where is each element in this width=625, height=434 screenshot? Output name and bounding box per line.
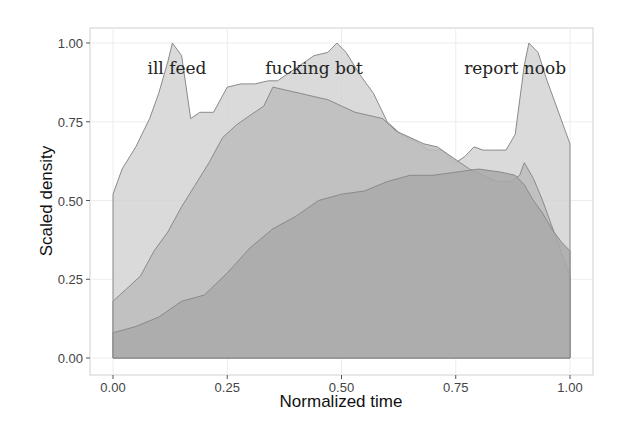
y-tick-label: 0.75 bbox=[58, 115, 83, 130]
y-tick-label: 0.50 bbox=[58, 194, 83, 209]
y-axis-title: Scaled density bbox=[37, 145, 56, 256]
y-tick-label: 0.00 bbox=[58, 351, 83, 366]
y-tick-label: 0.25 bbox=[58, 272, 83, 287]
annotation-label: ill feed bbox=[147, 58, 206, 78]
x-axis-title: Normalized time bbox=[280, 392, 403, 411]
x-tick-label: 0.00 bbox=[100, 380, 125, 395]
x-tick-label: 0.75 bbox=[443, 380, 468, 395]
x-tick-label: 0.25 bbox=[215, 380, 240, 395]
y-axis: 0.000.250.500.751.00 bbox=[58, 36, 90, 366]
y-tick-label: 1.00 bbox=[58, 36, 83, 51]
annotation-label: fucking bot bbox=[265, 58, 363, 78]
density-chart: 0.000.250.500.751.00 0.000.250.500.751.0… bbox=[0, 0, 625, 434]
x-tick-label: 1.00 bbox=[557, 380, 582, 395]
annotation-label: report noob bbox=[464, 58, 566, 78]
